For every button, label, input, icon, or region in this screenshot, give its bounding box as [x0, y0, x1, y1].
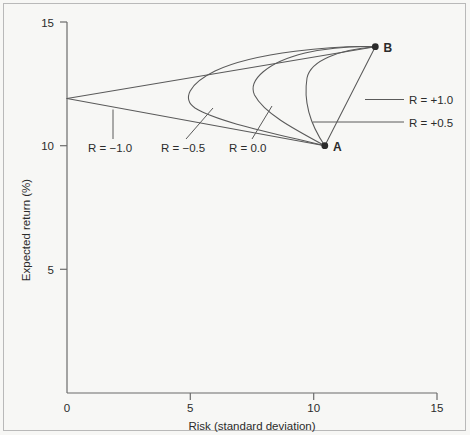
x-axis-ticks	[190, 393, 437, 400]
curve-correlation-minus-one-upper	[67, 47, 375, 99]
annotation-corr-plus-half: R = +0.5	[409, 117, 453, 129]
x-axis-title: Risk (standard deviation)	[188, 420, 315, 432]
curve-correlation-plus-one	[325, 47, 376, 146]
y-tick-label-15: 15	[41, 17, 54, 29]
data-point-a	[321, 142, 328, 149]
annotation-corr-zero: R = 0.0	[229, 142, 266, 154]
leader-corr-minus-half	[186, 108, 213, 139]
curve-correlation-minus-one-lower	[67, 99, 325, 146]
axis-lines	[67, 22, 437, 393]
chart-page: 15 10 5 0 5 10 15 Risk (standard deviati…	[0, 0, 470, 435]
curve-correlation-minus-half	[189, 47, 376, 146]
x-tick-label-0: 0	[64, 402, 70, 414]
annotation-corr-minus-half: R = −0.5	[161, 142, 205, 154]
x-tick-label-5: 5	[187, 402, 193, 414]
data-point-a-label: A	[333, 140, 342, 154]
portfolio-risk-return-chart: 15 10 5 0 5 10 15 Risk (standard deviati…	[0, 0, 470, 435]
y-axis-title: Expected return (%)	[20, 179, 32, 281]
y-tick-label-10: 10	[41, 140, 54, 152]
y-axis-ticks	[60, 22, 67, 269]
data-point-b-label: B	[384, 41, 393, 55]
x-tick-label-10: 10	[307, 402, 320, 414]
annotation-corr-minus-one: R = −1.0	[88, 142, 132, 154]
curve-correlation-zero	[253, 47, 375, 146]
x-tick-label-15: 15	[431, 402, 444, 414]
annotation-corr-plus-one: R = +1.0	[409, 94, 453, 106]
curve-correlation-plus-half	[306, 47, 375, 146]
y-tick-label-5: 5	[48, 264, 54, 276]
data-point-b	[372, 43, 379, 50]
